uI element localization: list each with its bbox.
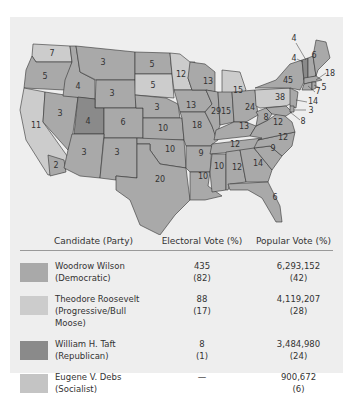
popular-pct: (42): [264, 272, 333, 284]
candidate-name: Theodore Roosevelt: [55, 293, 158, 305]
electoral-votes: 88: [158, 293, 246, 305]
header-candidate: Candidate (Party): [20, 236, 158, 246]
header-popular-vote: Popular Vote (%): [246, 236, 333, 246]
candidate-party: (Socialist): [55, 383, 158, 395]
svg-text:29: 29: [211, 107, 221, 116]
candidate-name: Eugene V. Debs: [55, 371, 158, 383]
svg-text:20: 20: [155, 175, 165, 184]
color-swatch-debs: [20, 374, 48, 393]
legend-row-wilson: Woodrow Wilson (Democratic) 435 (82) 6,2…: [20, 260, 333, 284]
svg-text:5: 5: [42, 72, 47, 81]
svg-text:18: 18: [325, 69, 335, 78]
svg-text:14: 14: [253, 159, 263, 168]
electoral-votes: 435: [158, 260, 246, 272]
svg-text:4: 4: [75, 82, 80, 91]
popular-votes: 3,484,980: [264, 338, 333, 350]
legend-row-roosevelt: Theodore Roosevelt (Progressive/Bull Moo…: [20, 293, 333, 329]
electoral-votes: —: [158, 371, 246, 383]
us-electoral-map: 7 5 11 2 4 3 3 3 4 6 3 3 5 5 3 10 10 20 …: [0, 0, 355, 235]
svg-text:14: 14: [308, 97, 318, 106]
svg-text:7: 7: [315, 87, 320, 96]
popular-votes: 6,293,152: [264, 260, 333, 272]
svg-text:12: 12: [230, 140, 240, 149]
svg-text:7: 7: [49, 49, 54, 58]
svg-text:45: 45: [283, 76, 293, 85]
svg-text:3: 3: [114, 148, 119, 157]
svg-text:24: 24: [245, 103, 255, 112]
svg-text:13: 13: [203, 77, 213, 86]
svg-text:12: 12: [232, 163, 242, 172]
state-wy: [95, 80, 136, 108]
legend-row-debs: Eugene V. Debs (Socialist) — 900,672 (6): [20, 371, 333, 395]
candidate-name: Woodrow Wilson: [55, 260, 158, 272]
svg-text:3: 3: [57, 109, 62, 118]
svg-text:13: 13: [239, 122, 249, 131]
candidate-party: (Democratic): [55, 272, 158, 284]
svg-text:9: 9: [270, 144, 275, 153]
popular-pct: (24): [264, 350, 333, 362]
color-swatch-roosevelt: [20, 296, 48, 315]
svg-text:12: 12: [176, 70, 186, 79]
svg-text:3: 3: [154, 103, 159, 112]
svg-text:6: 6: [120, 118, 125, 127]
svg-text:3: 3: [308, 106, 313, 115]
popular-votes: 4,119,207: [264, 293, 333, 305]
state-ms: [210, 154, 226, 192]
svg-text:10: 10: [158, 124, 168, 133]
svg-text:2: 2: [53, 161, 58, 170]
svg-text:3: 3: [81, 148, 86, 157]
svg-text:5: 5: [150, 81, 155, 90]
electoral-votes: 8: [158, 338, 246, 350]
svg-text:18: 18: [192, 121, 202, 130]
candidate-name: William H. Taft: [55, 338, 158, 350]
svg-text:8: 8: [300, 117, 305, 126]
svg-text:12: 12: [278, 133, 288, 142]
electoral-pct: (82): [158, 272, 246, 284]
popular-votes: 900,672: [264, 371, 333, 383]
electoral-pct: (17): [158, 305, 246, 317]
state-nj: [290, 88, 298, 108]
candidate-party: (Progressive/Bull Moose): [55, 305, 158, 329]
state-de: [290, 106, 294, 112]
svg-text:4: 4: [85, 117, 90, 126]
results-legend-table: Candidate (Party) Electoral Vote (%) Pop…: [20, 232, 333, 395]
svg-text:10: 10: [214, 162, 224, 171]
candidate-party: (Republican): [55, 350, 158, 362]
svg-text:10: 10: [165, 145, 175, 154]
color-swatch-wilson: [20, 263, 48, 282]
color-swatch-taft: [20, 341, 48, 360]
svg-text:5: 5: [321, 83, 326, 92]
svg-text:6: 6: [311, 51, 316, 60]
state-fl: [228, 182, 282, 222]
svg-text:13: 13: [186, 101, 196, 110]
popular-pct: (6): [264, 383, 333, 395]
svg-text:10: 10: [198, 172, 208, 181]
electoral-pct: (1): [158, 350, 246, 362]
popular-pct: (28): [264, 305, 333, 317]
svg-text:38: 38: [275, 93, 285, 102]
svg-text:8: 8: [263, 113, 268, 122]
svg-text:6: 6: [272, 193, 277, 202]
svg-text:3: 3: [100, 58, 105, 67]
svg-text:4: 4: [291, 54, 296, 63]
svg-text:15: 15: [233, 86, 243, 95]
svg-text:15: 15: [221, 107, 231, 116]
state-nm: [100, 138, 137, 180]
svg-text:5: 5: [149, 60, 154, 69]
svg-text:11: 11: [31, 121, 41, 130]
state-ny: [255, 60, 304, 90]
svg-text:12: 12: [273, 118, 283, 127]
svg-text:3: 3: [109, 89, 114, 98]
legend-row-taft: William H. Taft (Republican) 8 (1) 3,484…: [20, 338, 333, 362]
svg-text:4: 4: [291, 34, 296, 43]
header-electoral-vote: Electoral Vote (%): [158, 236, 246, 246]
legend-header: Candidate (Party) Electoral Vote (%) Pop…: [20, 232, 333, 251]
svg-text:9: 9: [198, 149, 203, 158]
